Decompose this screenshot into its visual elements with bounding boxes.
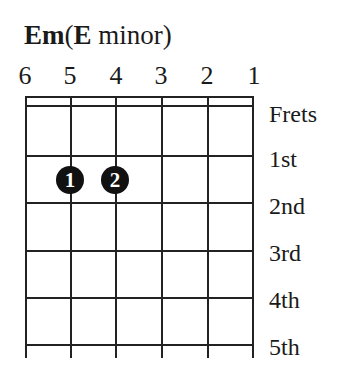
frets-header: Frets (269, 101, 317, 127)
string-line-5 (70, 96, 72, 358)
open-paren: ( (65, 20, 74, 50)
fret-line-5 (25, 344, 254, 346)
string-number-6: 6 (15, 62, 35, 90)
finger-dot-1: 1 (56, 166, 84, 194)
fret-line-3 (25, 250, 254, 252)
chord-root: E (74, 20, 92, 50)
fret-label-3: 3rd (269, 240, 301, 266)
nut-line (25, 105, 254, 107)
fret-line-4 (25, 297, 254, 299)
string-number-2: 2 (197, 62, 217, 90)
fret-label-4: 4th (269, 287, 300, 313)
string-number-4: 4 (106, 62, 126, 90)
string-line-2 (207, 96, 209, 358)
string-line-1 (252, 96, 254, 358)
close-paren: ) (163, 20, 172, 50)
string-number-5: 5 (60, 62, 80, 90)
string-number-1: 1 (244, 62, 264, 90)
chord-symbol: Em (24, 20, 65, 50)
fret-label-2: 2nd (269, 193, 305, 219)
chord-quality: minor (92, 20, 163, 50)
fret-label-1: 1st (269, 146, 297, 172)
nut-top-line (25, 96, 254, 98)
string-number-3: 3 (151, 62, 171, 90)
string-line-6 (25, 96, 27, 358)
string-line-3 (161, 96, 163, 358)
string-line-4 (115, 96, 117, 358)
chord-title: Em(E minor) (24, 20, 172, 50)
fret-label-5: 5th (269, 334, 300, 360)
fret-line-1 (25, 155, 254, 157)
finger-dot-2: 2 (101, 166, 129, 194)
fret-line-2 (25, 202, 254, 204)
